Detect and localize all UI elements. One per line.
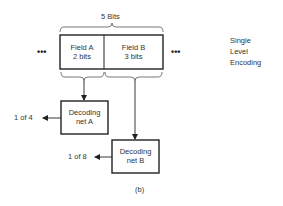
diagram-lines [0,0,283,206]
encoding-type-note: Single Level Encoding [230,35,261,68]
field-a-width: 2 bits [60,52,104,61]
decoder-b-line2: net B [112,156,159,165]
note-line-2: Level [230,46,261,57]
note-line-3: Encoding [230,57,261,68]
field-a-name: Field A [60,43,104,52]
field-b-width: 3 bits [104,52,163,61]
decoder-a-line2: net A [61,117,108,126]
decoder-a-output: 1 of 4 [14,113,33,122]
decoder-a-line1: Decoding [61,108,108,117]
field-b-name: Field B [104,43,163,52]
figure-caption: (b) [135,185,144,194]
single-level-encoding-diagram: 5 Bits Field A 2 bits Field B 3 bits •••… [0,0,283,206]
decoder-b-output: 1 of 8 [68,152,87,161]
ellipsis-left: ••• [37,48,46,57]
ellipsis-right: ••• [171,48,180,57]
total-bits-label: 5 Bits [101,12,120,21]
note-line-1: Single [230,35,261,46]
top-brace [60,23,163,32]
decoder-b-label: Decoding net B [112,147,159,165]
field-a-cell: Field A 2 bits [60,43,104,61]
lower-brace-b [105,72,162,81]
field-b-cell: Field B 3 bits [104,43,163,61]
decoder-b-line1: Decoding [112,147,159,156]
decoder-a-label: Decoding net A [61,108,108,126]
lower-brace-a [61,72,104,81]
